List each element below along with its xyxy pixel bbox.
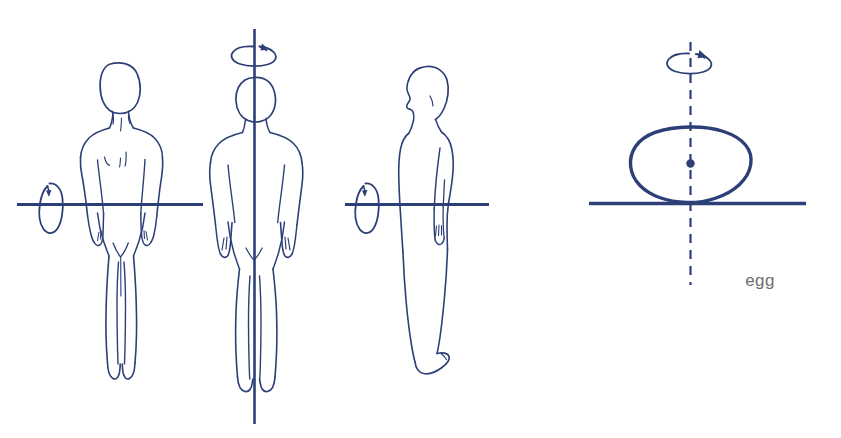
figure2-leg-right-inner bbox=[260, 276, 262, 379]
figure-side-view-horizontal-axis bbox=[345, 66, 489, 373]
figure2-shoulder-left bbox=[211, 133, 243, 163]
figure1-crotch-line bbox=[113, 243, 128, 257]
figure2-forearm-right-outer bbox=[292, 225, 297, 255]
figure3-abdomen-front bbox=[400, 206, 403, 252]
figure2-leg-right-outer bbox=[273, 269, 277, 377]
figure-egg-vertical-axis bbox=[589, 42, 806, 285]
figure1-arm-left-outer bbox=[80, 158, 87, 217]
figure1-leg-left-outer bbox=[106, 256, 109, 363]
figure3-rotation-arrowhead bbox=[362, 190, 368, 197]
figure1-rotation-arrowhead bbox=[46, 190, 52, 197]
figure1-foot-right bbox=[122, 363, 135, 379]
figure2-foot-left bbox=[238, 377, 254, 392]
figure3-forearm-back-line bbox=[443, 207, 444, 238]
figure3-chin bbox=[410, 109, 414, 121]
figure1-neck-left bbox=[110, 113, 114, 128]
figure3-hand-fingers bbox=[436, 225, 442, 236]
figure3-arm-back-line bbox=[443, 180, 444, 207]
figure2-neck-right bbox=[266, 119, 270, 133]
figure2-arm-left-outer bbox=[210, 163, 216, 225]
figure1-head-outline bbox=[100, 63, 140, 114]
figure2-hand-left-fingers bbox=[222, 237, 227, 250]
figure3-hand bbox=[435, 238, 444, 245]
figure2-rotation-arrowhead bbox=[261, 44, 269, 51]
figure2-leg-left-outer bbox=[236, 269, 240, 377]
figure2-foot-right bbox=[260, 377, 276, 392]
figure1-hand-right-fingers bbox=[144, 231, 148, 241]
figure1-sternum-line bbox=[120, 158, 121, 167]
figure3-neck-front bbox=[409, 121, 414, 134]
figure3-ear-line bbox=[430, 96, 433, 106]
figure3-chest-front bbox=[399, 133, 409, 206]
figure1-leg-left-inner bbox=[117, 262, 119, 364]
figure3-head-crown bbox=[409, 66, 449, 119]
figure1-forearm-left-outer bbox=[88, 216, 95, 243]
figure3-leg-back bbox=[437, 249, 448, 354]
figure2-arm-right-outer bbox=[297, 163, 303, 225]
figure1-hip-right bbox=[134, 213, 146, 256]
figure3-back-upper bbox=[442, 132, 454, 203]
figure2-leg-left-inner bbox=[249, 276, 251, 379]
figure3-leg-front bbox=[403, 252, 415, 362]
figure-front-view-vertical-axis bbox=[210, 29, 303, 424]
figure1-throat-line bbox=[121, 118, 122, 131]
egg-rotation-arrowhead bbox=[698, 50, 708, 58]
egg-center-point bbox=[686, 159, 694, 167]
figure1-leg-right-inner bbox=[124, 262, 126, 364]
figure2-neck-left bbox=[243, 120, 246, 133]
figure2-arm-left-inner bbox=[228, 165, 235, 223]
figure3-face-profile bbox=[407, 81, 410, 110]
figure3-arm-front-line bbox=[434, 148, 440, 209]
figure3-neck-back bbox=[436, 120, 442, 133]
figure1-shoulder-left bbox=[81, 128, 110, 158]
figure1-pec-line-right bbox=[125, 152, 126, 166]
figure-front-view-horizontal-axis bbox=[17, 63, 203, 379]
figure1-arm-right-outer bbox=[157, 158, 163, 216]
figure2-arm-right-inner bbox=[278, 165, 285, 223]
figure1-shoulder-right bbox=[134, 128, 163, 158]
figure1-pec-line-left bbox=[105, 157, 110, 166]
figure2-forearm-left-outer bbox=[216, 225, 221, 255]
figure1-forearm-right-outer bbox=[151, 216, 157, 243]
figure2-hand-right-fingers bbox=[285, 237, 290, 250]
figure3-back-lower bbox=[447, 203, 449, 249]
figure1-leg-right-outer bbox=[134, 256, 137, 363]
rotation-axes-illustration: egg bbox=[0, 0, 841, 438]
figure1-hand-left bbox=[94, 214, 103, 246]
figure2-shoulder-right bbox=[270, 133, 302, 163]
egg-caption-label: egg bbox=[745, 271, 775, 290]
figure1-foot-left bbox=[108, 363, 121, 379]
